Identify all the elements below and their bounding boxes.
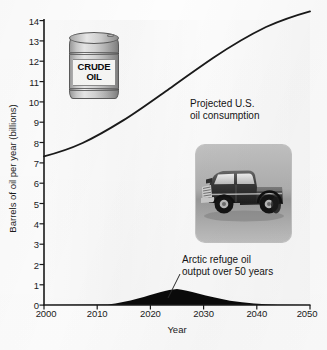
crude-oil-barrel-illustration: CRUDEOIL: [67, 30, 121, 102]
x-tick-2050: 2050: [297, 308, 318, 319]
consumption-annotation-line-2: oil consumption: [190, 110, 259, 121]
y-tick-10: 10: [29, 96, 39, 107]
y-tick-7: 7: [34, 157, 39, 168]
y-tick-13: 13: [29, 35, 39, 46]
x-tick-2030: 2030: [193, 308, 214, 319]
y-tick-3: 3: [34, 239, 39, 250]
consumption-annotation: Projected U.S.oil consumption: [190, 98, 259, 121]
barrel-label-line-2: OIL: [86, 71, 101, 82]
barrel-bung-cap: [107, 34, 114, 37]
y-tick-4: 4: [34, 218, 39, 229]
arctic-annotation-line-1: Arctic refuge oil: [182, 254, 251, 265]
arctic-refuge-area: [44, 289, 310, 305]
x-tick-2000: 2000: [36, 308, 57, 319]
x-tick-2040: 2040: [246, 308, 267, 319]
y-tick-8: 8: [34, 137, 39, 148]
y-tick-2: 2: [34, 259, 39, 270]
y-tick-11: 11: [29, 76, 39, 87]
y-tick-1: 1: [34, 279, 39, 290]
x-tick-2010: 2010: [87, 308, 108, 319]
pickup-truck-graphic: [196, 145, 291, 242]
barrel-rib-upper: [69, 52, 119, 55]
y-tick-6: 6: [34, 178, 39, 189]
consumption-annotation-line-1: Projected U.S.: [190, 98, 254, 109]
x-axis-title: Year: [44, 324, 310, 335]
y-tick-14: 14: [29, 15, 39, 26]
barrel-label: CRUDEOIL: [73, 59, 115, 86]
oil-projection-chart: 14 13 12 11 10 9 8 7 6 5 4 3 2 1 0 2000 …: [0, 0, 327, 350]
pickup-truck-photo: [196, 145, 291, 242]
x-tick-2020: 2020: [140, 308, 161, 319]
y-tick-9: 9: [34, 117, 39, 128]
x-tick-labels: 2000 2010 2020 2030 2040 2050: [0, 308, 327, 324]
y-tick-12: 12: [29, 56, 39, 67]
barrel-rib-lower: [69, 88, 119, 91]
arctic-annotation: Arctic refuge oiloutput over 50 years: [182, 254, 273, 277]
arctic-annotation-line-2: output over 50 years: [182, 266, 273, 277]
y-axis-title: Barrels of oil per year (billions): [7, 94, 18, 244]
y-tick-5: 5: [34, 198, 39, 209]
